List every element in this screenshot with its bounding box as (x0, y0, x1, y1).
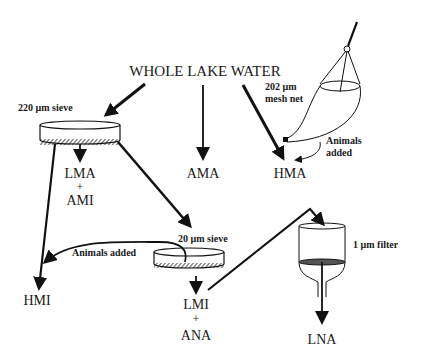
whole-lake-water-label: WHOLE LAKE WATER (129, 63, 280, 79)
animals-added-sieve-label: Animals added (72, 247, 137, 258)
filter-1um-label: 1 µm filter (353, 239, 399, 250)
hma-label: HMA (274, 166, 308, 181)
lma-label: LMA (64, 166, 96, 181)
sieve-220-icon (40, 121, 120, 145)
arrow-to-20-sieve (118, 142, 190, 226)
sieve-20-icon (154, 248, 224, 268)
ama-label: AMA (187, 166, 221, 181)
lake-water-fractionation-diagram: WHOLE LAKE WATER 220 µm sieve LMA + AMI … (0, 0, 428, 357)
lna-label: LNA (308, 332, 338, 347)
diagram-canvas: WHOLE LAKE WATER 220 µm sieve LMA + AMI … (0, 0, 428, 357)
net-label-line1: 202 µm (265, 81, 297, 92)
arrow-to-hmi (39, 144, 55, 288)
ami-label: AMI (66, 193, 94, 208)
sieve-20-label: 20 µm sieve (178, 233, 228, 244)
ana-label: ANA (181, 328, 212, 343)
net-label-line2: mesh net (265, 93, 304, 104)
hmi-label: HMI (23, 293, 51, 308)
arrow-to-220-sieve (106, 84, 145, 115)
lmi-label: LMI (183, 297, 209, 312)
animals-added-net-line1: Animals (326, 135, 362, 146)
plus-sign-2: + (193, 312, 200, 326)
filter-1um-icon (299, 223, 345, 322)
sieve-220-label: 220 µm sieve (18, 102, 73, 113)
animals-added-net-line2: added (326, 147, 353, 158)
arrow-to-1um-filter (208, 209, 323, 290)
animals-added-net-arrow (296, 142, 320, 160)
plus-sign: + (77, 180, 84, 194)
